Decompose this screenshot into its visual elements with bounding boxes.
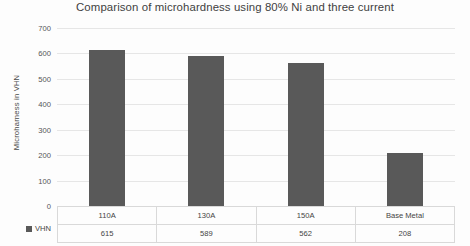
y-tick-label-300: 300 [38,125,51,134]
legend-swatch-vhn [26,226,32,232]
plot-area: 0100200300400500600700 [57,28,455,206]
table-value-cell: 562 [256,225,355,243]
bar-slot [256,28,356,206]
y-tick-label-100: 100 [38,176,51,185]
table-category-cell: 130A [157,207,256,225]
table-row-categories: 110A130A150ABase Metal [58,207,455,225]
bar-130a [188,56,224,206]
chart-title: Comparison of microhardness using 80% Ni… [0,1,470,13]
y-tick-label-700: 700 [38,24,51,33]
bar-110a [89,50,125,206]
table-category-cell: 110A [58,207,157,225]
table-category-cell: Base Metal [355,207,454,225]
bar-chart-figure: Comparison of microhardness using 80% Ni… [0,0,470,246]
table-value-cell: 208 [355,225,454,243]
y-tick-label-600: 600 [38,49,51,58]
table-row-values: 615589562208 [58,225,455,243]
legend-label-vhn: VHN [35,224,51,233]
table-value-cell: 615 [58,225,157,243]
table-category-cell: 150A [256,207,355,225]
table-value-cell: 589 [157,225,256,243]
y-tick-label-400: 400 [38,100,51,109]
y-tick-label-500: 500 [38,74,51,83]
bars-layer [57,28,455,206]
y-axis-title: Microharness in VHN [12,53,21,173]
bar-slot [157,28,257,206]
bar-slot [57,28,157,206]
chart-data-table: 110A130A150ABase Metal 615589562208 [57,206,455,243]
chart-legend: VHN [26,224,51,233]
y-tick-label-0: 0 [47,202,51,211]
bar-150a [288,63,324,206]
bar-base-metal [387,153,423,206]
bar-slot [356,28,456,206]
y-tick-label-200: 200 [38,151,51,160]
